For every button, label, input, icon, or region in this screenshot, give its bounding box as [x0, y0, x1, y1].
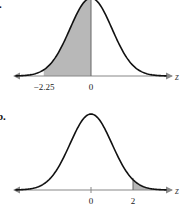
panel-a-label: . — [0, 0, 2, 10]
figure: . z −2.25 0 b. z 0 2 — [0, 0, 183, 205]
tick-label-0-a: 0 — [89, 82, 94, 92]
z-axis-label-b: z — [174, 185, 179, 196]
panel-b: b. z 0 2 — [0, 110, 179, 205]
tick-label-neg225: −2.25 — [34, 82, 55, 92]
panel-a: . z −2.25 0 — [0, 0, 179, 92]
tick-label-2: 2 — [131, 196, 136, 205]
normal-curve-b — [15, 114, 166, 190]
z-axis-label-a: z — [174, 71, 179, 82]
panel-b-label: b. — [0, 110, 6, 122]
tick-label-0-b: 0 — [89, 196, 94, 205]
